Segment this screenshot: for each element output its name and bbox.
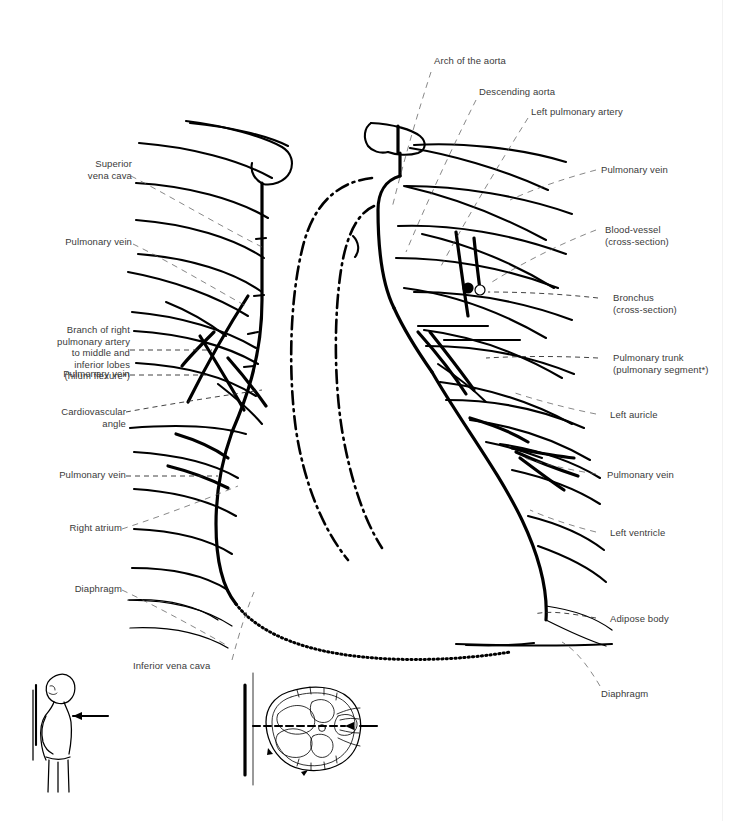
label-pulmonary-vein-upper-right: Pulmonary vein (601, 164, 741, 176)
label-superior-vena-cava: Superior vena cava (12, 158, 132, 181)
label-pulmonary-vein-lower-left: Pulmonary vein (6, 469, 126, 481)
bronchus-cross-section-ring (475, 285, 485, 295)
label-pulmonary-vein-upper-left: Pulmonary vein (8, 236, 132, 248)
body-position-inset (33, 674, 108, 792)
diaphragm-lines (128, 600, 612, 648)
label-adipose-body: Adipose body (610, 613, 750, 625)
cross-section-markers (462, 282, 485, 295)
label-blood-vessel-cross-section: Blood-vessel (cross-section) (605, 224, 745, 247)
label-pulmonary-trunk: Pulmonary trunk (pulmonary segment*) (613, 352, 754, 375)
label-left-auricle: Left auricle (610, 409, 750, 421)
blood-vessel-cross-section-dot (462, 282, 473, 293)
thorax-cross-section-inset (245, 673, 377, 785)
label-pulmonary-vein-mid-left: Pulmonary vein (6, 368, 130, 380)
aortic-knob-and-left-hilum (365, 123, 425, 155)
label-pulmonary-vein-right: Pulmonary vein (607, 469, 747, 481)
label-inferior-vena-cava: Inferior vena cava (133, 660, 273, 672)
heart-anatomy-figure: Superior vena cava Pulmonary vein Branch… (0, 0, 754, 821)
label-diaphragm-right: Diaphragm (601, 688, 741, 700)
label-left-pulmonary-artery: Left pulmonary artery (531, 106, 701, 118)
label-right-atrium: Right atrium (6, 522, 122, 534)
aorta-dashdot-outline (291, 178, 382, 560)
label-arch-of-the-aorta: Arch of the aorta (434, 55, 584, 67)
label-diaphragm-left: Diaphragm (6, 583, 122, 595)
left-lung-vessel-lines (396, 144, 612, 630)
right-lung-vessel-lines (128, 123, 288, 626)
label-descending-aorta: Descending aorta (479, 86, 629, 98)
label-bronchus-cross-section: Bronchus (cross-section) (613, 292, 753, 315)
leader-lines (122, 72, 600, 686)
label-cardiovascular-angle: Cardiovascular angle (6, 406, 126, 429)
label-left-ventricle: Left ventricle (610, 527, 750, 539)
